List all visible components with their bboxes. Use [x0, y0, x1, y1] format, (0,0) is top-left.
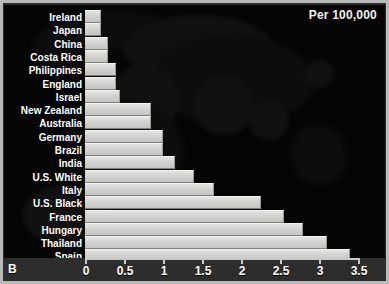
x-tick-label-1: 1 — [161, 264, 168, 278]
bar-label-thailand: Thailand — [41, 237, 82, 250]
chart-row: Brazil — [4, 143, 385, 156]
bar-thailand — [85, 236, 327, 249]
chart-row: Spain — [4, 249, 385, 258]
bar-label-spain: Spain — [55, 250, 82, 258]
bar-china — [85, 37, 108, 50]
chart-row: China — [4, 37, 385, 50]
bar-italy — [85, 183, 214, 196]
bar-label-china: China — [54, 38, 82, 51]
bar-israel — [85, 90, 120, 103]
x-tick-label-0-5: 0.5 — [117, 264, 134, 278]
bar-label-israel: Israel — [56, 91, 82, 104]
panel-letter: B — [8, 262, 17, 276]
bar-u-s-black — [85, 196, 261, 209]
unit-label: Per 100,000 — [309, 8, 377, 22]
bar-label-brazil: Brazil — [55, 144, 82, 157]
chart-row: Costa Rica — [4, 50, 385, 63]
bar-england — [85, 77, 116, 90]
bar-india — [85, 156, 175, 169]
x-axis-tick-labels: 00.511.522.533.5 — [4, 264, 385, 282]
bar-spain — [85, 249, 350, 258]
bar-label-costa-rica: Costa Rica — [30, 51, 82, 64]
bar-label-u-s-black: U.S. Black — [33, 197, 82, 210]
x-tick-label-3: 3 — [317, 264, 324, 278]
chart-row: Hungary — [4, 223, 385, 236]
x-tick-label-0: 0 — [83, 264, 90, 278]
chart-row: Thailand — [4, 236, 385, 249]
bar-label-germany: Germany — [39, 131, 82, 144]
bar-japan — [85, 23, 101, 36]
bar-france — [85, 210, 284, 223]
bars-group: IrelandJapanChinaCosta RicaPhilippinesEn… — [4, 5, 385, 258]
bar-brazil — [85, 143, 163, 156]
bar-philippines — [85, 63, 116, 76]
bar-new-zealand — [85, 103, 151, 116]
bar-label-philippines: Philippines — [29, 64, 82, 77]
chart-row: Italy — [4, 183, 385, 196]
bar-hungary — [85, 223, 303, 236]
x-tick-label-2-5: 2.5 — [273, 264, 290, 278]
chart-row: U.S. Black — [4, 196, 385, 209]
bar-label-france: France — [49, 211, 82, 224]
chart-row: France — [4, 210, 385, 223]
bar-label-japan: Japan — [53, 24, 82, 37]
chart-row: Philippines — [4, 63, 385, 76]
bar-costa-rica — [85, 50, 108, 63]
bar-label-australia: Australia — [39, 117, 82, 130]
chart-row: Germany — [4, 130, 385, 143]
bar-label-u-s-white: U.S. White — [33, 171, 82, 184]
bar-ireland — [85, 10, 101, 23]
chart-row: Japan — [4, 23, 385, 36]
bar-australia — [85, 116, 151, 129]
chart-row: Australia — [4, 116, 385, 129]
bar-u-s-white — [85, 170, 194, 183]
plot-canvas: Per 100,000 IrelandJapanChinaCosta RicaP… — [4, 5, 385, 258]
chart-screenshot: Per 100,000 IrelandJapanChinaCosta RicaP… — [0, 0, 389, 284]
bar-label-india: India — [59, 157, 82, 170]
chart-row: India — [4, 156, 385, 169]
x-tick-label-1-5: 1.5 — [195, 264, 212, 278]
chart-row: New Zealand — [4, 103, 385, 116]
bar-germany — [85, 130, 163, 143]
bar-label-new-zealand: New Zealand — [21, 104, 82, 117]
chart-row: Israel — [4, 90, 385, 103]
chart-row: England — [4, 77, 385, 90]
bar-label-italy: Italy — [62, 184, 82, 197]
chart-row: U.S. White — [4, 170, 385, 183]
bar-label-hungary: Hungary — [41, 224, 82, 237]
bar-label-england: England — [43, 78, 82, 91]
bar-label-ireland: Ireland — [49, 11, 82, 24]
x-tick-label-2: 2 — [239, 264, 246, 278]
x-tick-label-3-5: 3.5 — [351, 264, 368, 278]
